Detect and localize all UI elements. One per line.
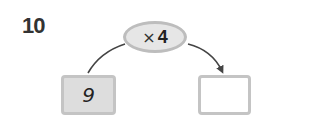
input-value: 9 — [82, 83, 95, 107]
input-box: 9 — [61, 75, 116, 115]
answer-input[interactable] — [201, 77, 248, 113]
operation-oval: × 4 — [123, 21, 187, 53]
multiply-symbol: × — [142, 28, 155, 47]
operand-value: 4 — [158, 27, 168, 48]
input-connector-line — [88, 44, 125, 73]
answer-box[interactable] — [198, 75, 251, 115]
output-arrow — [188, 44, 222, 71]
